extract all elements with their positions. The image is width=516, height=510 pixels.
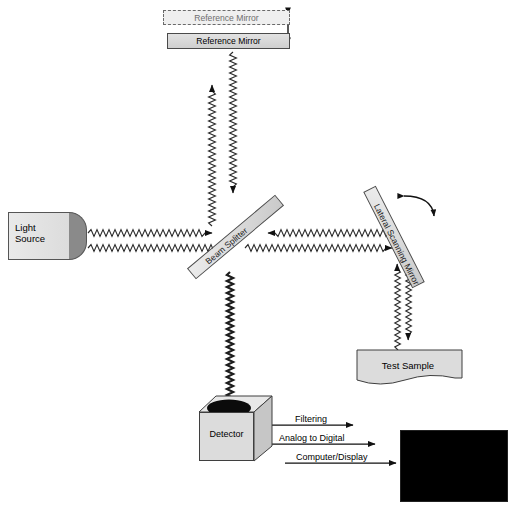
beam-reference-up — [209, 85, 216, 226]
beam-reference-down — [230, 52, 237, 193]
beam-sample-lower — [245, 245, 392, 252]
beam-sample-upper — [268, 230, 392, 237]
reference-mirror-ghost: Reference Mirror — [163, 10, 290, 25]
reference-mirror-label: Reference Mirror — [168, 34, 289, 48]
beam-paths — [88, 52, 411, 350]
beam-to-detector — [227, 272, 233, 407]
signal-chain-label-filtering: Filtering — [295, 414, 327, 424]
light-source-label-line1: Light — [15, 222, 36, 233]
reference-mirror: Reference Mirror — [167, 33, 290, 49]
beam-source-upper — [88, 230, 212, 237]
beam-from-sample — [395, 264, 401, 350]
light-source-label-line2: Source — [15, 233, 45, 244]
reference-mirror-ghost-label: Reference Mirror — [164, 11, 289, 25]
light-source-label: Light Source — [8, 222, 70, 244]
motion-arrows — [288, 14, 434, 216]
output-display-panel — [400, 430, 508, 502]
test-sample-label: Test Sample — [363, 360, 453, 371]
beam-source-lower — [88, 245, 224, 252]
detector-label: Detector — [199, 429, 254, 439]
signal-chain-label-analog-to-digital: Analog to Digital — [279, 433, 345, 443]
diagram-canvas: Light Source Reference Mirror Reference … — [0, 0, 516, 510]
scanning-mirror-rotation-arrow — [404, 196, 434, 216]
signal-chain-label-computer-display: Computer/Display — [296, 452, 368, 462]
